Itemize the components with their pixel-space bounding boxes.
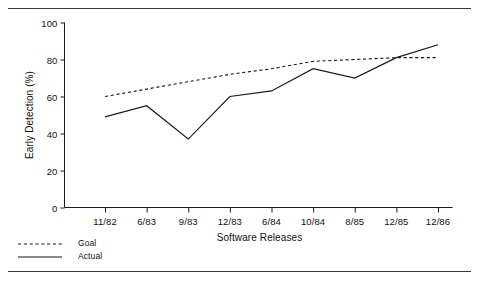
x-axis-tick-label: 6/84 bbox=[262, 216, 281, 227]
chart-legend: Goal Actual bbox=[18, 237, 102, 263]
y-axis-tick-label: 100 bbox=[41, 17, 57, 28]
x-axis-tick-label: 9/83 bbox=[179, 216, 198, 227]
x-axis-ticks bbox=[106, 208, 439, 213]
legend-label-actual: Actual bbox=[78, 252, 102, 261]
series-line-actual bbox=[105, 45, 438, 139]
legend-solid-line-icon bbox=[18, 253, 62, 261]
x-axis-tick-label: 12/85 bbox=[384, 216, 408, 227]
legend-item-goal: Goal bbox=[18, 237, 102, 250]
legend-label-goal: Goal bbox=[78, 239, 96, 248]
chart-axes bbox=[61, 23, 453, 213]
legend-item-actual: Actual bbox=[18, 250, 102, 263]
x-axis-tick-label: 11/82 bbox=[93, 216, 117, 227]
y-axis-tick-label: 20 bbox=[47, 165, 58, 176]
y-axis-tick-label: 0 bbox=[52, 202, 57, 213]
y-axis-ticks bbox=[61, 23, 65, 208]
legend-dashed-line-icon bbox=[18, 240, 62, 248]
y-axis-tick-label: 60 bbox=[47, 91, 58, 102]
chart-series-group bbox=[105, 45, 438, 139]
x-axis-tick-label: 10/84 bbox=[301, 216, 325, 227]
x-axis-tick-label: 8/85 bbox=[345, 216, 364, 227]
y-axis-title: Early Detection (%) bbox=[24, 71, 35, 159]
x-axis-tick-label: 12/83 bbox=[218, 216, 242, 227]
figure-container: 020406080100 11/826/839/8312/836/8410/84… bbox=[0, 0, 479, 281]
y-axis-tick-label: 40 bbox=[47, 128, 58, 139]
x-axis-tick-label: 6/83 bbox=[137, 216, 156, 227]
x-axis-tick-label: 12/86 bbox=[426, 216, 450, 227]
y-axis-tick-label: 80 bbox=[47, 54, 58, 65]
